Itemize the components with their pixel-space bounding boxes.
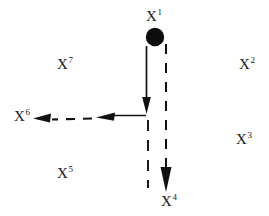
node-label-x5: X5 bbox=[57, 165, 73, 181]
node-label-x2: X2 bbox=[239, 56, 255, 72]
node-label-x4: X4 bbox=[161, 193, 177, 209]
arrowhead-down-junction bbox=[142, 97, 151, 114]
arrowhead-left-mid bbox=[96, 112, 115, 120]
node-label-x1: X1 bbox=[146, 8, 162, 24]
edge-left-to-x6 bbox=[52, 119, 92, 120]
node-label-x7: X7 bbox=[57, 56, 73, 72]
node-label-x6: X6 bbox=[14, 108, 30, 124]
arrowhead-left-x6 bbox=[33, 114, 51, 123]
arrowhead-down-x4 bbox=[161, 167, 172, 192]
figure-canvas: X1 X2 X3 X4 X5 X6 X7 bbox=[0, 0, 269, 216]
node-label-x3: X3 bbox=[236, 131, 252, 147]
diagram-svg bbox=[0, 0, 269, 216]
node-marker-x1 bbox=[146, 28, 164, 46]
